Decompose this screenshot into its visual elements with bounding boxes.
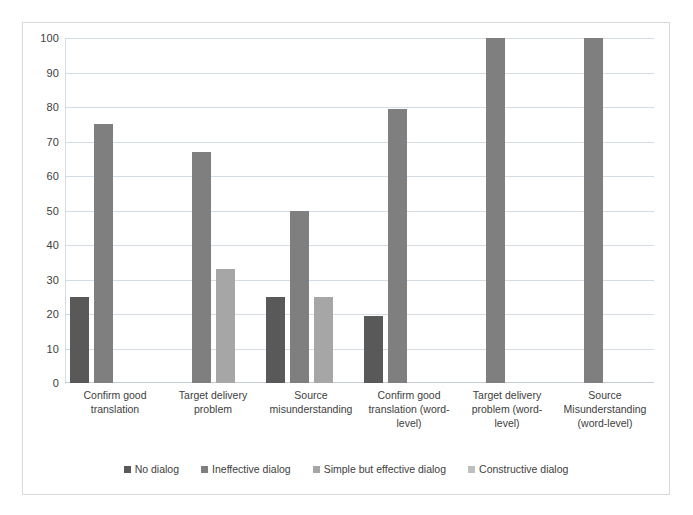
y-tick-label: 80 xyxy=(25,102,59,113)
bar-group xyxy=(556,38,654,383)
bar[interactable] xyxy=(192,152,211,383)
legend-item[interactable]: No dialog xyxy=(124,463,179,475)
plot-wrapper: 1009080706050403020100 Confirm good tran… xyxy=(23,23,669,494)
bar[interactable] xyxy=(486,38,505,383)
bar-slot xyxy=(560,38,579,383)
y-tick-label: 30 xyxy=(25,275,59,286)
bar-slot xyxy=(168,38,187,383)
bar[interactable] xyxy=(266,297,285,383)
legend-label: Ineffective dialog xyxy=(212,463,291,475)
bar-slot xyxy=(412,38,431,383)
bar[interactable] xyxy=(584,38,603,383)
bar-slots xyxy=(66,38,164,383)
bar-slot xyxy=(486,38,505,383)
bar-slot xyxy=(216,38,235,383)
legend-swatch-icon xyxy=(201,466,208,473)
y-tick-label: 60 xyxy=(25,171,59,182)
bar-slot xyxy=(314,38,333,383)
y-tick-label: 70 xyxy=(25,137,59,148)
chart-container: 1009080706050403020100 Confirm good tran… xyxy=(22,22,670,495)
legend-swatch-icon xyxy=(313,466,320,473)
y-axis: 1009080706050403020100 xyxy=(23,23,59,494)
bar-slot xyxy=(364,38,383,383)
x-axis-label: Target delivery problem (word-level) xyxy=(458,388,556,450)
x-axis-label: Confirm good translation (word-level) xyxy=(360,388,458,450)
bar-slot xyxy=(462,38,481,383)
bar-slot xyxy=(70,38,89,383)
bar-slot xyxy=(290,38,309,383)
bar-group xyxy=(458,38,556,383)
bar-slot xyxy=(584,38,603,383)
bar[interactable] xyxy=(70,297,89,383)
x-axis-labels: Confirm good translationTarget delivery … xyxy=(66,388,654,450)
y-tick-label: 20 xyxy=(25,309,59,320)
legend-item[interactable]: Constructive dialog xyxy=(468,463,568,475)
y-tick-label: 0 xyxy=(25,378,59,389)
bar-slot xyxy=(388,38,407,383)
x-axis-label: Source Misunderstanding (word-level) xyxy=(556,388,654,450)
legend-swatch-icon xyxy=(124,466,131,473)
x-axis-label: Source misunderstanding xyxy=(262,388,360,450)
bar-slot xyxy=(192,38,211,383)
y-tick-label: 100 xyxy=(25,33,59,44)
bar-slot xyxy=(94,38,113,383)
legend-label: Constructive dialog xyxy=(479,463,568,475)
plot-area xyxy=(66,38,654,383)
bar[interactable] xyxy=(388,109,407,383)
legend-item[interactable]: Simple but effective dialog xyxy=(313,463,446,475)
y-tick-label: 10 xyxy=(25,344,59,355)
bar-slots xyxy=(556,38,654,383)
bar-slots xyxy=(360,38,458,383)
bar-slot xyxy=(436,38,455,383)
bar-slot xyxy=(118,38,137,383)
bar-slots xyxy=(458,38,556,383)
bar-group xyxy=(262,38,360,383)
bar-slot xyxy=(632,38,651,383)
y-tick-label: 90 xyxy=(25,68,59,79)
bar[interactable] xyxy=(314,297,333,383)
chart-legend: No dialogIneffective dialogSimple but ef… xyxy=(23,463,669,475)
bar-slot xyxy=(338,38,357,383)
bar[interactable] xyxy=(290,211,309,384)
bar-slot xyxy=(240,38,259,383)
bar-slot xyxy=(608,38,627,383)
legend-swatch-icon xyxy=(468,466,475,473)
bar-group xyxy=(360,38,458,383)
bar-group xyxy=(66,38,164,383)
bar-group xyxy=(164,38,262,383)
legend-label: No dialog xyxy=(135,463,179,475)
bar-slots xyxy=(164,38,262,383)
bar[interactable] xyxy=(364,316,383,383)
x-axis-label: Confirm good translation xyxy=(66,388,164,450)
y-tick-label: 50 xyxy=(25,206,59,217)
bar[interactable] xyxy=(216,269,235,383)
bar-slots xyxy=(262,38,360,383)
bar-groups xyxy=(66,38,654,383)
legend-label: Simple but effective dialog xyxy=(324,463,446,475)
bar-slot xyxy=(510,38,529,383)
bar-slot xyxy=(534,38,553,383)
bar-slot xyxy=(142,38,161,383)
y-tick-label: 40 xyxy=(25,240,59,251)
bar[interactable] xyxy=(94,124,113,383)
x-axis-label: Target delivery problem xyxy=(164,388,262,450)
legend-item[interactable]: Ineffective dialog xyxy=(201,463,291,475)
bar-slot xyxy=(266,38,285,383)
